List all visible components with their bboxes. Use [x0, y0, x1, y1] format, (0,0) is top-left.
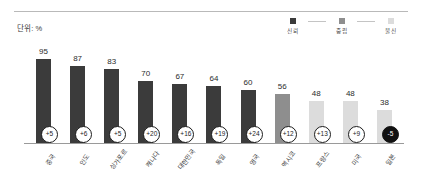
unit-label: 단위: % — [17, 22, 42, 33]
category-label: 일본 — [383, 151, 398, 167]
change-badge: +12 — [280, 126, 297, 143]
category-label: 캐나다 — [142, 149, 161, 169]
category-label: 인도 — [76, 151, 91, 167]
bar-value-label: 60 — [244, 79, 253, 87]
category-cell: 캐나다 — [138, 146, 165, 180]
category-label: 중국 — [42, 151, 57, 167]
category-cell: 멕시코 — [275, 146, 302, 180]
badge-cell: +20 — [138, 126, 165, 143]
category-axis: 중국인도싱가포르캐나다대한민국독일영국멕시코프랑스미국일본 — [30, 146, 410, 180]
badge-cell: +12 — [275, 126, 302, 143]
legend-item-distrust: 불신 — [375, 18, 406, 35]
bar-value-label: 95 — [39, 48, 48, 56]
category-cell: 인도 — [70, 146, 97, 180]
bar-value-label: 48 — [312, 90, 321, 98]
badge-cell: +9 — [343, 126, 370, 143]
category-label: 싱가포르 — [106, 146, 129, 171]
badge-cell: +13 — [309, 126, 336, 143]
legend-swatch-neutral — [339, 18, 345, 24]
chart-page: 단위: % 신뢰 중립 불신 9587837067646056484838 +5… — [0, 0, 422, 183]
bar-value-label: 38 — [380, 99, 389, 107]
change-badge: +24 — [246, 126, 263, 143]
category-label: 영국 — [246, 151, 261, 167]
category-cell: 중국 — [36, 146, 63, 180]
badge-cell: +6 — [70, 126, 97, 143]
bar-value-label: 48 — [346, 90, 355, 98]
category-cell: 싱가포르 — [104, 146, 131, 180]
legend-swatch-trust — [290, 18, 296, 24]
change-badge: +19 — [211, 126, 228, 143]
header-divider — [14, 11, 408, 12]
legend-swatch-distrust — [388, 18, 394, 24]
bar-value-label: 64 — [210, 75, 219, 83]
change-badge: +20 — [143, 126, 160, 143]
bar-value-label: 83 — [107, 58, 116, 66]
legend-connector — [357, 21, 375, 22]
badge-cell: +24 — [241, 126, 268, 143]
chart-legend: 신뢰 중립 불신 — [277, 18, 406, 35]
change-badge: +6 — [75, 126, 92, 143]
change-badge: -5 — [382, 126, 399, 143]
bar-value-label: 67 — [175, 73, 184, 81]
legend-label-trust: 신뢰 — [287, 26, 298, 35]
badge-cell: +16 — [172, 126, 199, 143]
category-cell: 일본 — [377, 146, 404, 180]
category-label: 멕시코 — [279, 149, 298, 169]
category-cell: 영국 — [241, 146, 268, 180]
badge-cell: +19 — [206, 126, 233, 143]
legend-item-trust: 신뢰 — [277, 18, 308, 35]
category-cell: 독일 — [206, 146, 233, 180]
badge-cell: -5 — [377, 126, 404, 143]
category-cell: 미국 — [343, 146, 370, 180]
change-badge: +16 — [177, 126, 194, 143]
badge-cell: +5 — [36, 126, 63, 143]
change-badge: +13 — [314, 126, 331, 143]
category-label: 프랑스 — [313, 149, 332, 169]
category-label: 독일 — [212, 151, 227, 167]
legend-connector — [308, 21, 326, 22]
change-badge-row: +5+6+5+20+16+19+24+12+13+9-5 — [30, 126, 410, 144]
category-cell: 프랑스 — [309, 146, 336, 180]
category-label: 대한민국 — [175, 146, 198, 171]
legend-label-neutral: 중립 — [336, 26, 347, 35]
legend-label-distrust: 불신 — [385, 26, 396, 35]
bar-value-label: 56 — [278, 83, 287, 91]
change-badge: +5 — [41, 126, 58, 143]
bar-value-label: 70 — [141, 70, 150, 78]
badge-cell: +5 — [104, 126, 131, 143]
bar-value-label: 87 — [73, 55, 82, 63]
category-label: 미국 — [349, 151, 364, 167]
change-badge: +5 — [109, 126, 126, 143]
change-badge: +9 — [348, 126, 365, 143]
category-cell: 대한민국 — [172, 146, 199, 180]
legend-item-neutral: 중립 — [326, 18, 357, 35]
